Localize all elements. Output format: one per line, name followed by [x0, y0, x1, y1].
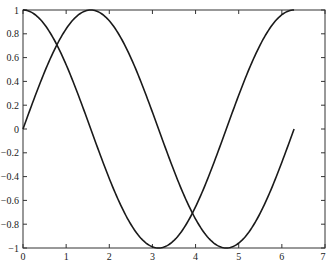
y-tick-label: 0.8 [7, 28, 20, 39]
plot-frame [23, 10, 325, 248]
x-tick-label: 6 [279, 251, 284, 262]
y-tick-label: 0 [14, 124, 19, 135]
x-tick-label: 3 [150, 251, 155, 262]
y-tick-label: 0.4 [7, 76, 20, 87]
y-tick-label: −0.6 [1, 195, 19, 206]
x-tick-label: 1 [64, 251, 69, 262]
x-tick-label: 2 [107, 251, 112, 262]
y-tick-label: −0.2 [1, 147, 19, 158]
y-tick-label: 0.6 [7, 52, 20, 63]
x-tick-label: 4 [193, 251, 198, 262]
x-tick-label: 5 [236, 251, 241, 262]
y-tick-label: 0.2 [7, 100, 20, 111]
x-tick-label: 7 [321, 251, 326, 262]
y-tick-label: −1 [8, 243, 19, 254]
line-chart: 01234567 −1−0.8−0.6−0.4−0.200.20.40.60.8… [0, 0, 327, 274]
y-tick-label: −0.4 [1, 171, 19, 182]
y-tick-label: 1 [14, 5, 19, 16]
y-tick-label: −0.8 [1, 219, 19, 230]
x-tick-label: 0 [21, 251, 26, 262]
